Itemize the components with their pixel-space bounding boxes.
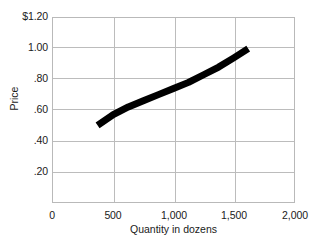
chart-figure: $1.20 1.00 .80 .60 .40 .20 Price 0 500 1… bbox=[0, 0, 322, 240]
supply-curve bbox=[53, 18, 294, 202]
y-tick-label: .80 bbox=[2, 73, 48, 84]
x-axis-title: Quantity in dozens bbox=[52, 223, 295, 235]
x-tick-label: 0 bbox=[22, 210, 82, 221]
y-axis-title: Price bbox=[9, 87, 20, 111]
x-tick-label: 1,500 bbox=[204, 210, 264, 221]
plot-area bbox=[52, 17, 295, 203]
y-tick-label: .20 bbox=[2, 166, 48, 177]
x-tick-label: 1,000 bbox=[144, 210, 204, 221]
y-tick-label: $1.20 bbox=[2, 11, 48, 22]
x-tick-label: 500 bbox=[83, 210, 143, 221]
y-axis-tick-labels: $1.20 1.00 .80 .60 .40 .20 bbox=[0, 0, 48, 240]
y-tick-label: 1.00 bbox=[2, 42, 48, 53]
x-tick-label: 2,000 bbox=[265, 210, 322, 221]
x-axis-tick-labels: 0 500 1,000 1,500 2,000 bbox=[0, 210, 322, 224]
y-tick-label: .40 bbox=[2, 135, 48, 146]
